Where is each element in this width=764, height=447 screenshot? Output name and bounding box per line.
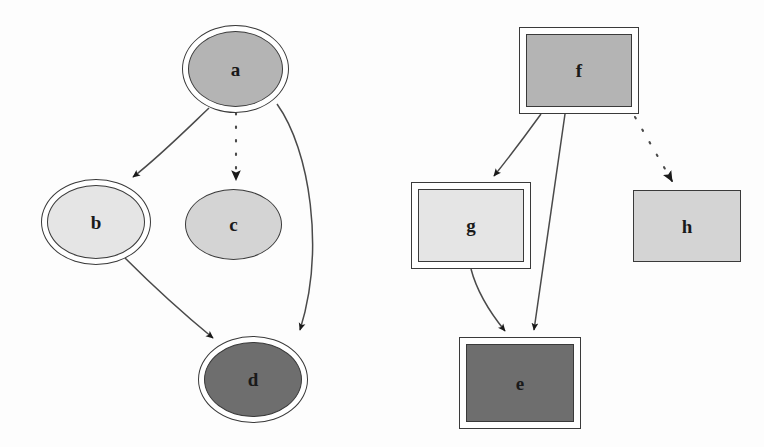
node-b-label: b <box>91 213 102 232</box>
node-g-label: g <box>466 216 476 235</box>
node-e[interactable]: e <box>459 337 581 429</box>
node-a[interactable]: a <box>182 25 289 113</box>
node-c[interactable]: c <box>185 189 282 260</box>
edge-b-d <box>125 258 213 338</box>
node-f-label: f <box>576 61 582 80</box>
edge-f-e <box>534 114 565 330</box>
diagram-canvas: a b c d f g h e <box>0 0 764 447</box>
edge-f-h <box>635 117 672 181</box>
node-c-label: c <box>229 215 237 234</box>
node-d-label: d <box>248 370 259 389</box>
edge-f-g <box>494 114 541 176</box>
node-e-label: e <box>516 374 524 393</box>
node-f[interactable]: f <box>519 27 639 114</box>
edge-a-d <box>277 104 312 330</box>
node-h[interactable]: h <box>633 190 741 262</box>
node-b[interactable]: b <box>41 179 151 265</box>
node-h-label: h <box>682 217 693 236</box>
edge-g-e <box>471 269 505 331</box>
node-a-label: a <box>231 60 241 79</box>
node-d[interactable]: d <box>198 336 308 423</box>
node-g[interactable]: g <box>411 182 531 269</box>
edge-a-b <box>133 108 209 177</box>
